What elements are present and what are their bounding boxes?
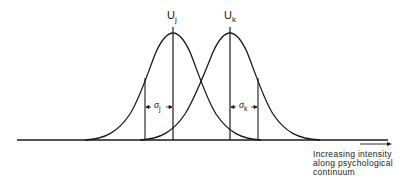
increasing-direction-arrow: [360, 142, 392, 146]
mean-symbol-k: U: [224, 9, 232, 21]
mean-label-k: Uk: [224, 9, 236, 24]
sigma-label-j: σj: [154, 99, 161, 112]
sigma-label-k: σk: [239, 99, 247, 112]
mean-subscript-j: j: [175, 15, 177, 24]
mean-symbol-j: U: [167, 9, 175, 21]
axis-label: Increasing intensity along psychological…: [313, 150, 409, 177]
sigma-subscript-j: j: [159, 105, 161, 112]
mean-label-j: Uj: [167, 9, 177, 24]
sigma-subscript-k: k: [244, 105, 248, 112]
mean-subscript-k: k: [232, 15, 236, 24]
axis-label-line-3: continuum: [313, 168, 409, 177]
